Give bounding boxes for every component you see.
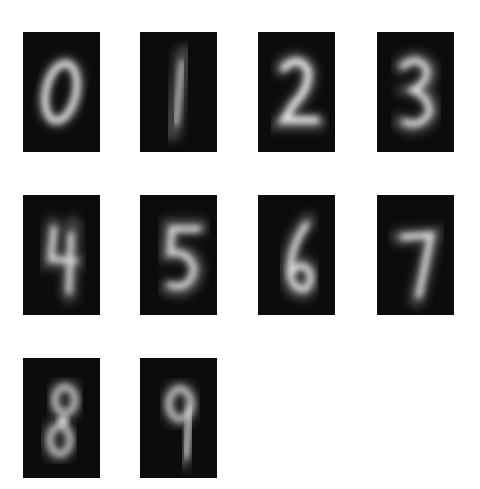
digit-tile-2: 2 xyxy=(258,32,335,152)
digit-1-image xyxy=(140,32,217,152)
digit-9-image xyxy=(140,358,217,478)
digit-tile-1: 1 xyxy=(140,32,217,152)
digit-3-image xyxy=(377,32,454,152)
digit-4-image xyxy=(23,195,100,315)
digit-5-image xyxy=(140,195,217,315)
digit-tile-6: 6 xyxy=(258,195,335,315)
digit-6-image xyxy=(258,195,335,315)
digit-tile-5: 5 xyxy=(140,195,217,315)
digit-0-image xyxy=(23,32,100,152)
digit-tile-7: 7 xyxy=(377,195,454,315)
digit-tile-0: 0 xyxy=(23,32,100,152)
digit-tile-9: 9 xyxy=(140,358,217,478)
digit-2-image xyxy=(258,32,335,152)
digit-tile-8: 8 xyxy=(23,358,100,478)
digit-tile-4: 4 xyxy=(23,195,100,315)
digit-8-image xyxy=(23,358,100,478)
digit-7-image xyxy=(377,195,454,315)
digit-tile-3: 3 xyxy=(377,32,454,152)
